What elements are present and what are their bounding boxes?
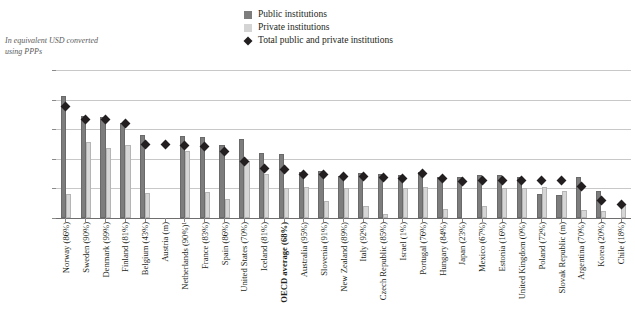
bar-private <box>601 211 606 218</box>
x-axis-category-label: New Zealand (89%) <box>334 222 354 322</box>
bar-group <box>393 70 413 218</box>
bar-group <box>413 70 433 218</box>
bar-group <box>433 70 453 218</box>
bar-group <box>175 70 195 218</box>
x-axis-category-label: Israel (1%) <box>393 222 413 322</box>
category-label-text: United States (70%) <box>240 222 249 292</box>
bar-private <box>383 214 388 218</box>
x-axis-category-label: Austria (m) <box>155 222 175 322</box>
bar-group <box>532 70 552 218</box>
bar-group <box>195 70 215 218</box>
bars <box>334 70 354 218</box>
bars <box>373 70 393 218</box>
bar-private <box>403 188 408 218</box>
x-axis-category-label: Japan (23%) <box>453 222 473 322</box>
bar-group <box>96 70 116 218</box>
x-axis-category-label: Sweden (90%) <box>76 222 96 322</box>
bar-private <box>363 206 368 218</box>
category-label-text: OECD average (68%) <box>280 222 289 303</box>
bar-group <box>512 70 532 218</box>
bar-private <box>125 145 130 218</box>
x-axis-category-label: Chile (18%) <box>611 222 631 322</box>
bar-group <box>56 70 76 218</box>
plot-area: 05 00010 00015 00020 00025 000 <box>56 70 631 218</box>
bars <box>512 70 532 218</box>
category-label-text: United Kingdom (0%) <box>517 222 526 299</box>
bar-group <box>294 70 314 218</box>
bars <box>254 70 274 218</box>
x-axis-category-label: Portugal (76%) <box>413 222 433 322</box>
category-label-text: Portugal (76%) <box>418 222 427 275</box>
bars <box>294 70 314 218</box>
bar-private <box>482 206 487 218</box>
category-label-text: Netherlands (90%)¹ <box>180 222 189 290</box>
axis-note: In equivalent USD converted using PPPs <box>5 36 115 57</box>
bar-private <box>185 151 190 218</box>
bars <box>413 70 433 218</box>
category-label-text: France (83%) <box>200 222 209 269</box>
x-axis-category-label: Korea (20%) <box>591 222 611 322</box>
bar-private <box>145 193 150 218</box>
bar-private <box>502 188 507 218</box>
bar-private <box>344 188 349 218</box>
bar-group <box>135 70 155 218</box>
bar-private <box>304 187 309 218</box>
x-axis-category-label: Slovak Republic (m) <box>552 222 572 322</box>
bars <box>115 70 135 218</box>
x-axis-category-label: Australia (95%) <box>294 222 314 322</box>
x-axis-category-label: Argentina (70%) <box>572 222 592 322</box>
bar-private <box>423 187 428 218</box>
category-label-text: Estonia (16%) <box>498 222 507 271</box>
bars <box>572 70 592 218</box>
category-label-text: Japan (23%) <box>458 222 467 265</box>
chart-legend: Public institutions Private institutions… <box>244 8 393 48</box>
legend-label-public: Public institutions <box>258 8 327 21</box>
category-label-text: Hungary (84%) <box>438 222 447 276</box>
category-axis-labels: Norway (86%)Sweden (90%)Denmark (99%)Fin… <box>56 222 631 322</box>
category-label-text: Czech Republic (85%) <box>379 222 388 300</box>
bar-private <box>562 191 567 218</box>
bar-private <box>264 174 269 218</box>
chart-container: In equivalent USD converted using PPPs P… <box>0 0 635 324</box>
bar-group <box>234 70 254 218</box>
bars <box>552 70 572 218</box>
bars <box>215 70 235 218</box>
category-label-text: Australia (95%) <box>299 222 308 277</box>
bar-group <box>334 70 354 218</box>
bars <box>76 70 96 218</box>
bar-group <box>572 70 592 218</box>
category-label-text: Norway (86%) <box>61 222 70 273</box>
x-axis-category-label: Hungary (84%) <box>433 222 453 322</box>
x-axis-category-label: OECD average (68%) <box>274 222 294 322</box>
x-axis-category-label: Denmark (99%) <box>96 222 116 322</box>
bars <box>234 70 254 218</box>
category-label-text: Slovak Republic (m) <box>557 222 566 294</box>
bar-group <box>373 70 393 218</box>
bars <box>472 70 492 218</box>
bar-private <box>324 201 329 218</box>
bar-private <box>86 142 91 218</box>
bar-private <box>581 210 586 218</box>
x-axis-category-label: Czech Republic (85%) <box>373 222 393 322</box>
x-axis-category-label: Italy (92%) <box>353 222 373 322</box>
bar-private <box>66 194 71 218</box>
x-axis-category-label: Poland (72%) <box>532 222 552 322</box>
bars <box>96 70 116 218</box>
category-label-text: Sweden (90%) <box>81 222 90 273</box>
bar-group <box>611 70 631 218</box>
category-label-text: Israel (1%) <box>398 222 407 260</box>
bars <box>453 70 473 218</box>
category-label-text: Korea (20%) <box>597 222 606 267</box>
x-axis-category-label: Norway (86%) <box>56 222 76 322</box>
legend-item-total: Total public and private institutions <box>244 34 393 47</box>
x-axis-category-label: Netherlands (90%)¹ <box>175 222 195 322</box>
bars <box>611 70 631 218</box>
bars <box>314 70 334 218</box>
legend-item-private: Private institutions <box>244 21 393 34</box>
bar-private <box>225 199 230 218</box>
bars <box>353 70 373 218</box>
bar-group <box>254 70 274 218</box>
bar-private <box>443 209 448 218</box>
category-label-text: Denmark (99%) <box>101 222 110 278</box>
bars <box>532 70 552 218</box>
